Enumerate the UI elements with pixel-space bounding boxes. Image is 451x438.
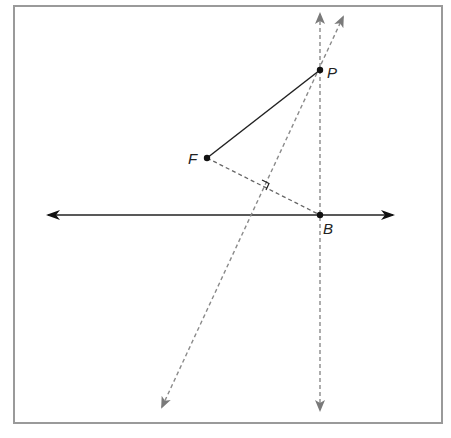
point-f <box>204 155 210 161</box>
perpendicular-bisector-line <box>162 17 343 407</box>
segment-fp <box>207 70 320 158</box>
point-p <box>317 67 323 73</box>
label-p: P <box>327 64 337 81</box>
geometry-diagram: P F B <box>0 0 451 438</box>
segment-fb <box>207 158 320 215</box>
point-b <box>317 212 323 218</box>
label-f: F <box>188 150 198 167</box>
label-b: B <box>323 220 333 237</box>
